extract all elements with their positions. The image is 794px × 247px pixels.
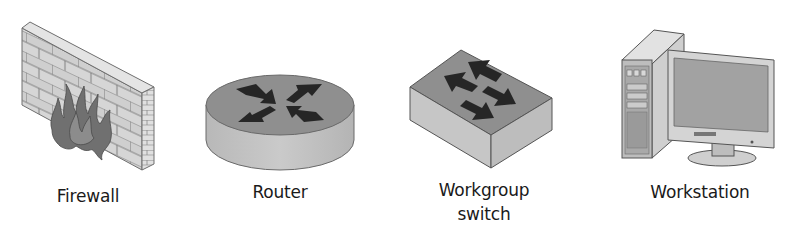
switch-label-line-1: Workgroup [429, 178, 539, 202]
firewall-icon [0, 0, 190, 247]
node-workstation: Workstation [594, 0, 794, 247]
router-icon [190, 0, 390, 247]
router-label-text: Router [252, 182, 307, 202]
router-label: Router [240, 180, 320, 204]
node-firewall: Firewall [0, 0, 190, 247]
switch-label-line-2: switch [429, 202, 539, 226]
firewall-label-text: Firewall [57, 186, 120, 206]
workstation-icon [594, 0, 794, 247]
node-workgroup-switch: Workgroup switch [394, 0, 594, 247]
node-router: Router [190, 0, 390, 247]
switch-label: Workgroup switch [429, 178, 539, 226]
workstation-label-text: Workstation [650, 182, 749, 202]
workstation-label: Workstation [642, 180, 758, 204]
firewall-label: Firewall [48, 184, 128, 208]
